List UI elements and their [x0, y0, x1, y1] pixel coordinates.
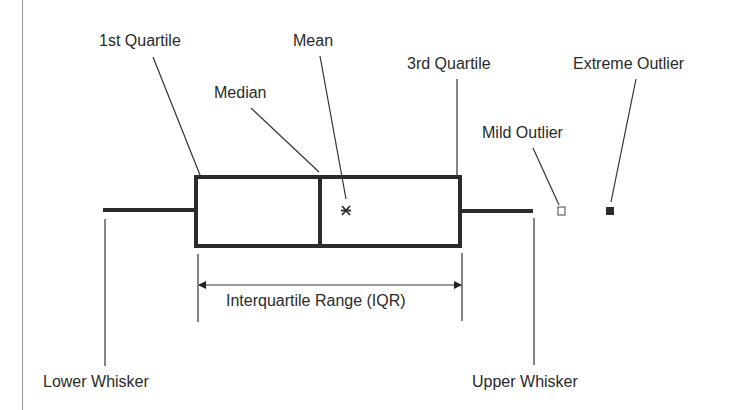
upper-whisker-label: Upper Whisker	[472, 373, 578, 391]
mild-outlier-leader	[533, 148, 559, 205]
iqr-box	[196, 177, 460, 246]
median-leader	[251, 108, 319, 172]
extreme-outlier-label: Extreme Outlier	[573, 55, 684, 73]
extreme-outlier-leader	[611, 79, 636, 202]
mild-outlier-label: Mild Outlier	[482, 124, 563, 142]
median-label: Median	[214, 84, 266, 102]
first-quartile-label: 1st Quartile	[99, 32, 181, 50]
filled-square-icon	[606, 207, 614, 215]
mean-label: Mean	[293, 32, 333, 50]
hollow-square-icon	[558, 207, 565, 215]
lower-whisker-label: Lower Whisker	[43, 373, 149, 391]
first-quartile-leader	[153, 57, 200, 175]
iqr-label: Interquartile Range (IQR)	[226, 292, 406, 310]
third-quartile-label: 3rd Quartile	[407, 55, 491, 73]
